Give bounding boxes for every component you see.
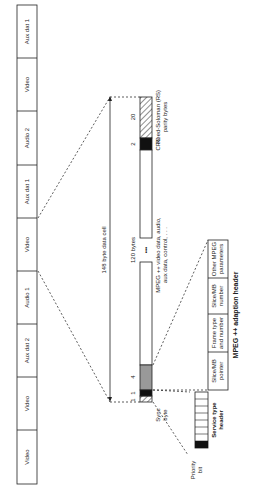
stream-cell-label: Audio 1 — [24, 287, 30, 308]
stream-cell-label: Aux dat 2 — [24, 337, 30, 363]
adaption-count: 4 — [130, 375, 136, 379]
sync-label: byte — [162, 409, 168, 421]
payload-desc: MPEG ++ video data, audio, — [155, 217, 161, 293]
adaption-field-label: Slice/MB — [211, 359, 217, 383]
adaption-field-label: Slice/MB — [211, 284, 217, 308]
rs-label: parity bytes — [162, 102, 168, 133]
stream-cell-label: Aux dat 1 — [24, 18, 30, 44]
crc-segment — [140, 138, 152, 150]
stream-cell-label: Video — [24, 395, 30, 411]
rs-count: 20 — [130, 113, 136, 120]
adaption-field-label: Frame type — [211, 317, 217, 348]
cell-stream: Aux dat 1 Video Audio 2 Aux dat 1 Video … — [17, 5, 37, 484]
crc-label: CRC — [155, 137, 161, 151]
rs-parity-segment — [140, 97, 152, 138]
data-cell-detail: ••• 20 2 120 bytes 4 1 1 Reed-Soloman (R… — [130, 90, 168, 422]
adaption-field-label: Other MPEG — [211, 241, 217, 276]
stream-cell-label: Video — [24, 449, 30, 465]
adaption-header-segment — [140, 365, 152, 390]
payload-ellipsis: ••• — [143, 247, 149, 253]
priority-bit-label: bit — [197, 467, 203, 474]
adaption-field-label: and number — [218, 317, 224, 349]
service-count: 1 — [130, 391, 136, 395]
priority-bit — [195, 441, 208, 448]
cell-size-label: 148 byte data cell — [101, 226, 107, 273]
rs-label: Reed-Soloman (RS) — [155, 90, 161, 144]
payload-segment — [140, 262, 152, 365]
adaption-field-label: pointer — [218, 362, 224, 380]
service-header-label: header — [218, 410, 224, 430]
service-byte-segment — [140, 390, 152, 396]
stream-cell-label: Audio 2 — [24, 127, 30, 148]
priority-bit-label: Priority — [190, 461, 196, 480]
adaption-field-label: number — [218, 286, 224, 306]
crc-count: 2 — [130, 142, 136, 146]
sync-byte-segment — [140, 396, 152, 402]
stream-cell-label: Video — [24, 236, 30, 252]
adaption-field-label: parameters — [218, 244, 224, 274]
service-header-label: Service type — [211, 402, 217, 438]
stream-cell-label: Video — [24, 76, 30, 92]
transport-diagram: Aux dat 1 Video Audio 2 Aux dat 1 Video … — [0, 0, 261, 493]
expansion-lines — [38, 97, 140, 402]
payload-size: 120 bytes — [130, 237, 136, 263]
cell-size-dimension: 148 byte data cell — [101, 96, 112, 402]
service-header-detail: Service type header Priority bit — [190, 392, 224, 479]
payload-desc: aux data, control, . . . — [162, 227, 168, 283]
payload-segment — [140, 150, 152, 238]
sync-label: Sync — [155, 408, 161, 421]
adaption-header-title: MPEG ++ adaption header — [232, 271, 240, 358]
adaption-header-detail: Other MPEG parameters Slice/MB number Fr… — [208, 240, 240, 390]
stream-cell-label: Aux dat 1 — [24, 178, 30, 204]
sync-count: 1 — [130, 398, 136, 402]
